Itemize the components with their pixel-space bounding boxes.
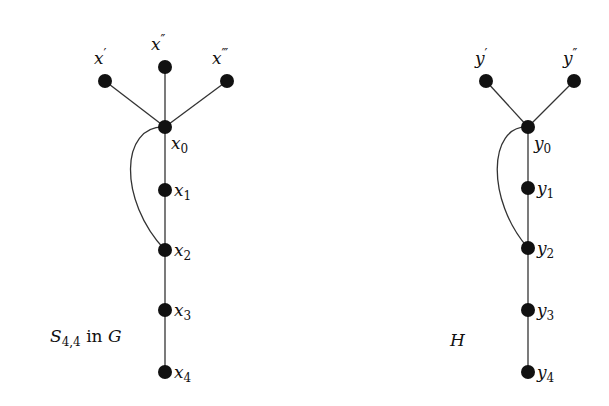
- label-y3: y3: [536, 300, 554, 323]
- node-y-prime: [479, 74, 493, 88]
- node-x-prime: [98, 74, 112, 88]
- label-x3: x3: [174, 300, 191, 323]
- label-y2: y2: [536, 238, 554, 261]
- node-y1: [521, 181, 535, 195]
- node-y0: [521, 120, 535, 134]
- label-x2: x2: [174, 240, 191, 263]
- caption-s44-in-g: S4,4 in G: [50, 326, 122, 349]
- label-x-tprime: x‴: [212, 46, 229, 68]
- nodes: [479, 74, 581, 379]
- label-x-dprime: x″: [151, 32, 166, 54]
- label-y0: y0: [533, 133, 551, 156]
- label-x4: x4: [174, 362, 192, 385]
- label-y4: y4: [536, 362, 555, 385]
- node-y3: [521, 303, 535, 317]
- label-y-prime: y′: [474, 46, 488, 68]
- caption-h: H: [449, 330, 466, 350]
- label-x-prime: x′: [94, 46, 107, 68]
- node-x3: [158, 303, 172, 317]
- node-y4: [521, 365, 535, 379]
- graph-h: y′ y″ y0 y1 y2 y3 y4 H: [449, 46, 581, 385]
- label-x0: x0: [171, 133, 188, 156]
- graph-s44-in-g: x′ x″ x‴ x0 x1 x2 x3 x4 S4,4 in G: [50, 32, 234, 385]
- edge-y0-ydprime: [528, 81, 574, 127]
- node-x0: [158, 120, 172, 134]
- edge-y0-yprime: [486, 81, 528, 127]
- edge-x0-xtprime: [165, 81, 227, 127]
- node-x-tprime: [220, 74, 234, 88]
- node-y-dprime: [567, 74, 581, 88]
- label-y-dprime: y″: [562, 46, 578, 68]
- edges: [105, 67, 227, 372]
- node-x1: [158, 183, 172, 197]
- label-x1: x1: [174, 180, 191, 203]
- label-y1: y1: [536, 178, 554, 201]
- node-x4: [158, 365, 172, 379]
- node-x-dprime: [158, 60, 172, 74]
- edge-x0-xprime: [105, 81, 165, 127]
- graph-diagram: x′ x″ x‴ x0 x1 x2 x3 x4 S4,4 in G y′ y″ …: [0, 0, 609, 406]
- node-y2: [521, 241, 535, 255]
- node-x2: [158, 243, 172, 257]
